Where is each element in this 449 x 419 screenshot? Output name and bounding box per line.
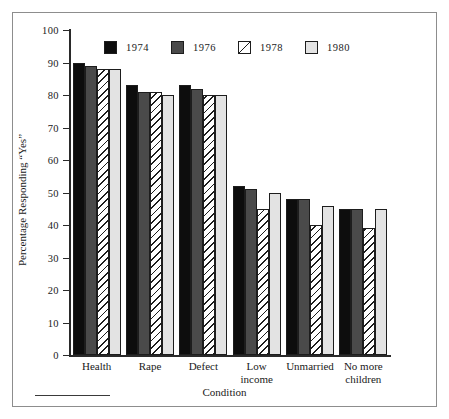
legend-entry-1980[interactable]: 1980 bbox=[305, 41, 350, 54]
y-axis-tick: 10 bbox=[63, 323, 70, 324]
bar-1978-low-income[interactable] bbox=[257, 209, 269, 355]
bar-1980-rape[interactable] bbox=[162, 95, 174, 355]
bar-1980-unmarried[interactable] bbox=[322, 206, 334, 356]
bar-1978-no-more-children[interactable] bbox=[363, 228, 375, 355]
bar-group bbox=[339, 30, 387, 355]
plot-area: 0102030405060708090100 bbox=[70, 30, 390, 355]
y-axis-tick: 80 bbox=[63, 95, 70, 96]
bar-1980-defect[interactable] bbox=[215, 95, 227, 355]
bar-1978-unmarried[interactable] bbox=[310, 225, 322, 355]
bar-1976-rape[interactable] bbox=[138, 92, 150, 355]
legend-entry-1974[interactable]: 1974 bbox=[104, 41, 149, 54]
bar-1976-defect[interactable] bbox=[191, 89, 203, 356]
y-axis-tick: 100 bbox=[63, 30, 70, 31]
bar-1974-defect[interactable] bbox=[179, 85, 191, 355]
bar-1980-low-income[interactable] bbox=[269, 193, 281, 356]
y-axis-tick-label: 70 bbox=[48, 122, 59, 133]
bar-1978-rape[interactable] bbox=[150, 92, 162, 355]
bar-1974-health[interactable] bbox=[73, 63, 85, 356]
legend-swatch-1976-icon bbox=[171, 41, 184, 54]
y-axis-tick-label: 60 bbox=[48, 155, 59, 166]
y-axis-tick: 50 bbox=[63, 193, 70, 194]
x-axis-line bbox=[69, 355, 391, 357]
footnote-rule bbox=[35, 395, 110, 396]
bar-1980-health[interactable] bbox=[109, 69, 121, 355]
bar-1980-no-more-children[interactable] bbox=[375, 209, 387, 355]
legend-swatch-1978-icon bbox=[238, 41, 251, 54]
bar-group bbox=[233, 30, 281, 355]
y-axis-tick-label: 100 bbox=[42, 25, 59, 36]
legend-swatch-1980-icon bbox=[305, 41, 318, 54]
y-axis-tick-label: 10 bbox=[48, 317, 59, 328]
figure-container: Percentage Responding “Yes” 010203040506… bbox=[0, 0, 449, 419]
legend-swatch-1974-icon bbox=[104, 41, 117, 54]
bar-1976-unmarried[interactable] bbox=[298, 199, 310, 355]
chart-legend: 1974197619781980 bbox=[104, 41, 372, 54]
legend-label: 1974 bbox=[126, 42, 149, 53]
bar-1974-no-more-children[interactable] bbox=[339, 209, 351, 355]
x-axis-title: Condition bbox=[0, 386, 449, 398]
y-axis-tick-label: 0 bbox=[53, 350, 59, 361]
legend-label: 1980 bbox=[327, 42, 350, 53]
y-axis-tick: 0 bbox=[63, 355, 70, 356]
bar-1978-health[interactable] bbox=[97, 69, 109, 355]
bar-1976-no-more-children[interactable] bbox=[351, 209, 363, 355]
legend-entry-1978[interactable]: 1978 bbox=[238, 41, 283, 54]
bar-group bbox=[126, 30, 174, 355]
x-axis-label-line: No more bbox=[323, 360, 403, 373]
bar-1974-unmarried[interactable] bbox=[286, 199, 298, 355]
legend-entry-1976[interactable]: 1976 bbox=[171, 41, 216, 54]
y-axis-tick: 30 bbox=[63, 258, 70, 259]
x-axis-label-line: children bbox=[323, 373, 403, 386]
y-axis-title: Percentage Responding “Yes” bbox=[16, 90, 28, 310]
y-axis-tick-label: 50 bbox=[48, 187, 59, 198]
bar-1976-low-income[interactable] bbox=[245, 189, 257, 355]
bar-1974-rape[interactable] bbox=[126, 85, 138, 355]
bar-1976-health[interactable] bbox=[85, 66, 97, 355]
y-axis-tick: 70 bbox=[63, 128, 70, 129]
y-axis-tick: 20 bbox=[63, 290, 70, 291]
bar-group bbox=[73, 30, 121, 355]
y-axis-tick-label: 80 bbox=[48, 90, 59, 101]
legend-label: 1978 bbox=[260, 42, 283, 53]
bar-1978-defect[interactable] bbox=[203, 95, 215, 355]
y-axis-tick: 90 bbox=[63, 63, 70, 64]
x-axis-label-line: income bbox=[217, 373, 297, 386]
bar-group bbox=[179, 30, 227, 355]
y-axis-tick-label: 30 bbox=[48, 252, 59, 263]
y-axis-tick-label: 90 bbox=[48, 57, 59, 68]
y-axis-tick: 60 bbox=[63, 160, 70, 161]
y-axis-tick-label: 20 bbox=[48, 285, 59, 296]
x-axis-label: No morechildren bbox=[323, 360, 403, 385]
y-axis-tick-label: 40 bbox=[48, 220, 59, 231]
y-axis-tick: 40 bbox=[63, 225, 70, 226]
legend-label: 1976 bbox=[193, 42, 216, 53]
bar-group bbox=[286, 30, 334, 355]
bar-1974-low-income[interactable] bbox=[233, 186, 245, 355]
